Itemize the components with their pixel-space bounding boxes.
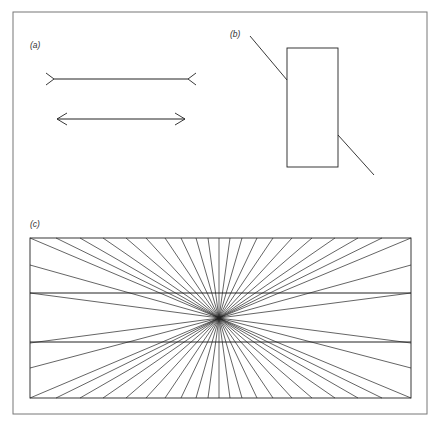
transversal-upper (250, 36, 287, 80)
fin-line (188, 73, 196, 79)
muller-lyer-inward-arrows (57, 113, 185, 125)
transversal-lower (338, 135, 374, 175)
poggendorff-figure (250, 36, 374, 175)
ray-line (30, 318, 219, 343)
ray-line (80, 238, 219, 318)
ray-line (219, 293, 411, 318)
ray-line (103, 318, 219, 398)
ray-line (219, 318, 335, 398)
ray-line (103, 238, 219, 318)
ray-line (219, 238, 242, 318)
ray-line (219, 238, 382, 318)
ray-line (56, 238, 219, 318)
ray-line (146, 318, 219, 398)
ray-line (219, 238, 312, 318)
ray-line (30, 265, 219, 318)
ray-line (219, 318, 411, 398)
ray-line (219, 238, 273, 318)
panel-c-hering: (c) (30, 219, 411, 398)
ray-line (146, 238, 219, 318)
ray-line (219, 318, 242, 398)
ray-line (196, 318, 219, 398)
panel-a-label: (a) (30, 40, 41, 50)
ray-line (30, 318, 219, 398)
ray-line (126, 238, 219, 318)
ray-line (219, 318, 292, 398)
ray-line (30, 293, 219, 318)
arrowhead-line (57, 113, 67, 119)
ray-line (219, 238, 292, 318)
ray-line (196, 238, 219, 318)
ray-line (219, 318, 382, 398)
ray-line (80, 318, 219, 398)
ray-line (219, 238, 335, 318)
arrowhead-line (175, 119, 185, 125)
illusion-figure: (a) (b) (c) (0, 0, 438, 424)
fin-line (46, 79, 54, 85)
ray-line (219, 238, 411, 318)
ray-line (219, 265, 411, 318)
panel-a-muller-lyer: (a) (30, 40, 196, 125)
occluding-rectangle (287, 48, 338, 167)
arrowhead-line (57, 119, 67, 125)
ray-line (219, 318, 411, 343)
ray-line (219, 238, 358, 318)
panel-b-label: (b) (230, 29, 241, 39)
muller-lyer-outward-fins (46, 73, 196, 85)
ray-line (165, 238, 219, 318)
ray-line (56, 318, 219, 398)
arrowhead-line (175, 113, 185, 119)
ray-line (219, 318, 358, 398)
panel-b-poggendorff: (b) (230, 29, 374, 175)
fin-line (46, 73, 54, 79)
hering-radiating-lines (30, 238, 411, 398)
panel-c-label: (c) (30, 219, 40, 229)
figure-frame (13, 12, 427, 414)
ray-line (30, 238, 219, 318)
fin-line (188, 79, 196, 85)
